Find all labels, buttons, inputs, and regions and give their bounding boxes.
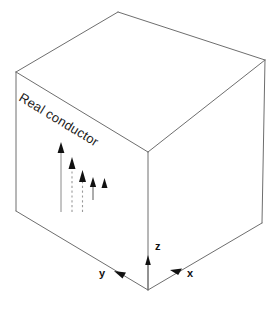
axis-y-label: y [99,267,106,279]
axis-x-label: x [187,267,194,279]
conductor-diagram: z y x Real conductor [0,0,278,309]
axis-z-label: z [155,240,161,252]
diagram-canvas: z y x Real conductor [0,0,278,309]
box-faces [16,12,265,290]
